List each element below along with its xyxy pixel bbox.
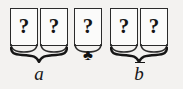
grouping-brace-a bbox=[10, 47, 68, 63]
grouping-brace-b-bar bbox=[110, 47, 168, 63]
group-label-a-text: a bbox=[34, 63, 44, 84]
card-slot-3[interactable]: ? bbox=[74, 8, 102, 46]
card-face-unknown-5: ? bbox=[149, 16, 160, 37]
card-face-unknown-2: ? bbox=[49, 16, 60, 37]
card-slot-2[interactable]: ? bbox=[40, 8, 68, 46]
card-slot-5[interactable]: ? bbox=[140, 8, 168, 46]
card-slot-4[interactable]: ? bbox=[110, 8, 138, 46]
card-face-unknown-1: ? bbox=[19, 16, 30, 37]
card-face-unknown-4: ? bbox=[119, 16, 130, 37]
group-label-b-bar-text: b bbox=[134, 64, 144, 83]
card-sequence-diagram: ? ? ? ? ? ♣ a bbox=[0, 0, 183, 89]
group-label-b-bar: b bbox=[110, 64, 168, 83]
group-label-a: a bbox=[10, 64, 68, 83]
card-slot-1[interactable]: ? bbox=[10, 8, 38, 46]
card-face-unknown-3: ? bbox=[83, 16, 94, 37]
club-suit-icon: ♣ bbox=[79, 48, 97, 63]
